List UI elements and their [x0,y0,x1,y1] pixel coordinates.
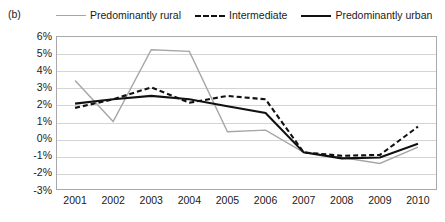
line-swatch-icon [301,10,331,20]
y-axis-tick-label: 0% [4,133,52,144]
chart-legend: Predominantly ruralIntermediatePredomina… [56,7,445,23]
chart-container: (b) Predominantly ruralIntermediatePredo… [0,0,445,222]
series-line [75,50,418,164]
y-axis-tick-label: 1% [4,116,52,127]
legend-entry[interactable]: Predominantly rural [56,9,181,21]
y-axis-tick-label: 3% [4,82,52,93]
line-swatch-icon [56,10,86,20]
x-axis-tick-label: 2010 [396,194,440,206]
legend-label: Intermediate [229,9,287,21]
x-axis: 2001200220032004200520062007200820092010 [56,194,437,210]
y-axis: 6%5%4%3%2%1%0%-1%-2%-3% [0,0,52,222]
y-axis-tick-label: -3% [4,185,52,196]
dashed-line-swatch-icon [195,10,225,20]
y-axis-tick-label: 4% [4,65,52,76]
y-axis-tick-label: 6% [4,31,52,42]
series-layer [56,36,437,190]
legend-label: Predominantly urban [335,9,432,21]
series-line [75,96,418,158]
y-axis-tick-label: 5% [4,48,52,59]
legend-entry[interactable]: Intermediate [195,9,287,21]
y-axis-tick-label: 2% [4,99,52,110]
legend-entry[interactable]: Predominantly urban [301,9,432,21]
legend-label: Predominantly rural [90,9,181,21]
y-axis-tick-label: -2% [4,167,52,178]
y-axis-tick-label: -1% [4,150,52,161]
